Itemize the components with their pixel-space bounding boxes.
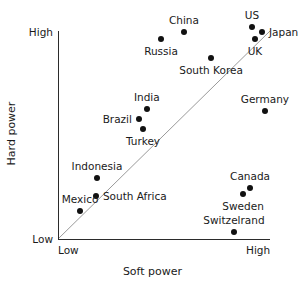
data-point-label: Turkey xyxy=(126,136,160,147)
x-axis-tick-high: High xyxy=(246,245,270,256)
data-point-label: Germany xyxy=(241,93,289,104)
data-point xyxy=(181,29,187,35)
data-point-label: UK xyxy=(248,46,263,57)
data-point-label: South Africa xyxy=(103,191,167,202)
data-point-label: China xyxy=(169,15,199,26)
scatter-chart: High Low Low High Soft power Hard power … xyxy=(0,0,305,289)
y-axis-title: Hard power xyxy=(6,79,17,189)
data-point-label: Brazil xyxy=(103,113,132,124)
data-point xyxy=(77,208,83,214)
data-point xyxy=(158,36,164,42)
data-point xyxy=(94,175,100,181)
data-point-label: India xyxy=(134,91,160,102)
data-point-label: Japan xyxy=(269,27,298,38)
data-point-label: US xyxy=(245,10,259,21)
data-point xyxy=(262,108,268,114)
data-point-label: Sweden xyxy=(222,201,264,212)
data-point-label: South Korea xyxy=(179,65,243,76)
data-point xyxy=(249,24,255,30)
data-point-label: Indonesia xyxy=(72,161,123,172)
data-point xyxy=(144,106,150,112)
data-point xyxy=(208,55,214,61)
data-point xyxy=(252,36,258,42)
y-axis-tick-high: High xyxy=(29,27,53,38)
data-point-label: Russia xyxy=(144,46,178,57)
data-point xyxy=(240,191,246,197)
x-axis-title: Soft power xyxy=(0,266,305,277)
data-point-label: Mexico xyxy=(62,194,99,205)
data-point xyxy=(259,29,265,35)
y-axis-line xyxy=(58,31,59,240)
data-point xyxy=(247,185,253,191)
data-point-label: Switzelrand xyxy=(203,215,264,226)
data-point xyxy=(136,116,142,122)
x-axis-tick-low: Low xyxy=(58,245,79,256)
data-point-label: Canada xyxy=(230,171,270,182)
x-axis-line xyxy=(58,239,270,240)
data-point xyxy=(231,229,237,235)
data-point xyxy=(140,126,146,132)
y-axis-tick-low: Low xyxy=(32,234,53,245)
